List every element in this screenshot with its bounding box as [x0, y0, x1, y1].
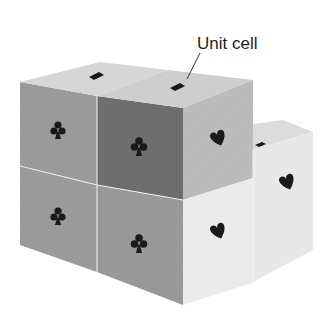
- bottom-cube-right-face: [183, 178, 255, 305]
- back-right-cube-right-face: [253, 132, 313, 282]
- unit-cell-label: Unit cell: [197, 34, 257, 53]
- unit-cell-diagram: Unit cell: [0, 0, 332, 322]
